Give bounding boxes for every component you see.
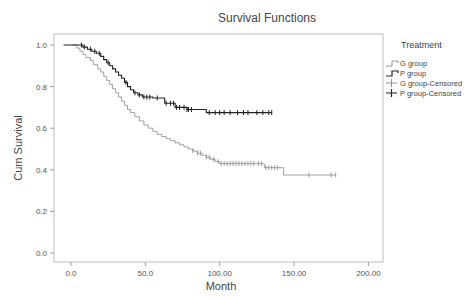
svg-text:P group: P group — [400, 69, 426, 78]
x-tick-label: 50.0 — [138, 269, 154, 278]
y-tick-label: 1.0 — [36, 41, 48, 50]
svg-text:G group-Censored: G group-Censored — [400, 79, 462, 88]
x-tick-label: 0.0 — [65, 269, 77, 278]
censor-mark-icon — [386, 89, 397, 97]
legend-item-p-group: P group — [386, 69, 426, 78]
censor-mark-icon — [386, 79, 397, 87]
x-tick-label: 150.00 — [282, 269, 307, 278]
x-tick-label: 100.00 — [207, 269, 232, 278]
x-axis: 0.050.0100.00150.00200.00 — [65, 262, 381, 278]
x-tick-label: 200.00 — [356, 269, 381, 278]
legend-item-g-censored: G group-Censored — [386, 79, 462, 88]
y-axis-label: Cum Survival — [12, 115, 24, 180]
legend: Treatment G group P group G group-Censor… — [386, 40, 462, 98]
y-tick-label: 0.4 — [36, 166, 48, 175]
chart-title: Survival Functions — [218, 11, 316, 25]
legend-item-g-group: G group — [386, 59, 427, 68]
svg-text:G group: G group — [400, 59, 427, 68]
y-tick-label: 0.8 — [36, 83, 48, 92]
y-tick-label: 0.6 — [36, 124, 48, 133]
y-tick-label: 0.2 — [36, 207, 48, 216]
y-tick-label: 0.0 — [36, 249, 48, 258]
survival-chart: Survival Functions 0.00.20.40.60.81.0 0.… — [0, 0, 470, 300]
plot-area — [54, 34, 383, 262]
y-axis: 0.00.20.40.60.81.0 — [36, 41, 54, 258]
step-line-icon — [386, 71, 398, 76]
legend-title: Treatment — [401, 40, 442, 50]
step-line-icon — [386, 61, 398, 66]
x-axis-label: Month — [206, 280, 237, 292]
legend-item-p-censored: P group-Censored — [386, 89, 461, 98]
svg-text:P group-Censored: P group-Censored — [400, 89, 461, 98]
